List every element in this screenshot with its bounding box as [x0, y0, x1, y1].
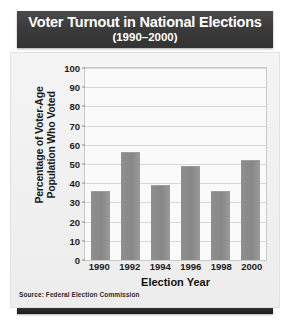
x-axis-tick-labels: 199019921994199619982000 [84, 261, 267, 272]
chart-card: Percentage of Voter-Age Population Who V… [10, 52, 280, 308]
y-axis-tick-label: 10 [69, 236, 80, 247]
footer-bar [17, 308, 273, 314]
x-axis-tick-label-1990: 1990 [84, 261, 115, 272]
bar-series [85, 68, 266, 260]
chart-subtitle: (1990–2000) [112, 31, 177, 44]
y-axis-tick-label: 0 [75, 255, 80, 266]
y-axis-tick-label: 50 [69, 159, 80, 170]
y-axis-tick-label: 90 [69, 82, 80, 93]
x-axis-tick-label-1994: 1994 [145, 261, 176, 272]
x-axis-tick-label-2000: 2000 [237, 261, 268, 272]
plot-area: 1009080706050403020100 [84, 67, 267, 261]
y-axis-tick-label: 70 [69, 121, 80, 132]
chart-title-band: Voter Turnout in National Elections (199… [17, 11, 273, 48]
bar-1998[interactable] [211, 191, 230, 260]
bar-slot [206, 68, 236, 260]
bar-slot [115, 68, 145, 260]
y-axis-tick-label: 30 [69, 197, 80, 208]
bar-slot [145, 68, 175, 260]
chart-title: Voter Turnout in National Elections [28, 15, 261, 30]
bar-1992[interactable] [121, 152, 140, 260]
bar-2000[interactable] [241, 160, 260, 260]
y-axis-title: Percentage of Voter-Age Population Who V… [33, 50, 57, 240]
y-axis-tick-label: 60 [69, 140, 80, 151]
x-axis-tick-label-1996: 1996 [176, 261, 207, 272]
bar-1990[interactable] [91, 191, 110, 260]
bar-1996[interactable] [181, 166, 200, 260]
x-axis-tick-label-1998: 1998 [206, 261, 237, 272]
y-axis-tick-label: 20 [69, 217, 80, 228]
x-axis-title: Election Year [84, 276, 267, 288]
x-axis-tick-label-1992: 1992 [115, 261, 146, 272]
source-note: Source: Federal Election Commission [19, 291, 140, 298]
y-axis-title-line-2: Population Who Voted [45, 91, 57, 198]
bar-1994[interactable] [151, 185, 170, 260]
y-axis-title-line-1: Percentage of Voter-Age [33, 86, 45, 203]
y-axis-tick-label: 80 [69, 101, 80, 112]
chart-figure: Voter Turnout in National Elections (199… [0, 0, 290, 328]
y-axis-tick-label: 100 [64, 63, 80, 74]
y-axis-tick-label: 40 [69, 178, 80, 189]
bar-slot [85, 68, 115, 260]
bar-slot [236, 68, 266, 260]
bar-slot [176, 68, 206, 260]
